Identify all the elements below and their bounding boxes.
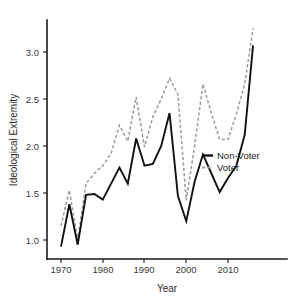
line-chart: 3.0 2.5 2.0 1.5 1.0 Ideological Extremit… <box>0 0 302 305</box>
x-tick-label-1990: 1990 <box>133 264 154 275</box>
legend-label-voter: Voter <box>217 162 239 173</box>
y-axis: 3.0 2.5 2.0 1.5 1.0 Ideological Extremit… <box>8 20 47 259</box>
x-axis-title: Year <box>157 283 178 294</box>
series-line-nonvoter <box>61 45 253 246</box>
legend-label-non-voter: Non-Voter <box>217 150 260 161</box>
y-tick-label-1: 2.0 <box>26 141 39 152</box>
series-line-voter <box>61 29 253 241</box>
x-tick-label-1970: 1970 <box>50 264 71 275</box>
x-tick-label-2010: 2010 <box>217 264 238 275</box>
y-axis-title: Ideological Extremity <box>8 94 19 186</box>
x-tick-label-2000: 2000 <box>175 264 196 275</box>
x-tick-label-1980: 1980 <box>92 264 113 275</box>
chart-figure: 3.0 2.5 2.0 1.5 1.0 Ideological Extremit… <box>0 0 302 305</box>
x-axis: 1970 1980 1990 2000 2010 Year <box>47 259 287 294</box>
y-tick-label-0: 1.5 <box>26 188 39 199</box>
y-tick-label-3: 3.0 <box>26 47 39 58</box>
y-tick-label-2: 2.5 <box>26 94 39 105</box>
plot-area <box>61 29 253 247</box>
y-tick-label-base: 1.0 <box>26 235 39 246</box>
